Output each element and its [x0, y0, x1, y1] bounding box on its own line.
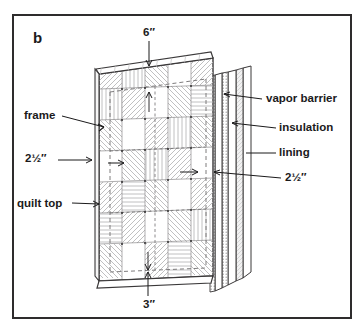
quilt-top-face — [95, 41, 214, 288]
panel-label-b: b — [33, 30, 42, 45]
layer-lining — [236, 66, 251, 281]
label-right-spacing: 2½″ — [285, 172, 307, 184]
label-lining: lining — [279, 147, 310, 159]
label-quilt-top: quilt top — [17, 198, 62, 210]
label-left-thickness: 2½″ — [25, 153, 47, 165]
figure-container: b 6″ 3″ frame 2½″ quilt top vapor barrie… — [0, 0, 361, 334]
label-frame: frame — [24, 110, 55, 122]
label-vapor-barrier: vapor barrier — [266, 93, 337, 105]
layer-insulation — [222, 70, 236, 288]
quilt-assembly — [58, 41, 281, 296]
figure-drawing — [0, 0, 361, 334]
dimension-top-6in: 6″ — [143, 27, 155, 39]
label-insulation: insulation — [279, 122, 333, 134]
dimension-bottom-3in: 3″ — [143, 299, 155, 311]
